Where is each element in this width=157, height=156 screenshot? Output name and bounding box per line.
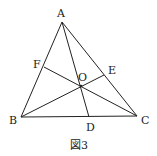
side-ab	[21, 22, 62, 117]
side-bc	[21, 116, 137, 117]
label-a: A	[56, 7, 66, 20]
point-o-dot	[80, 85, 83, 88]
cevian-be	[21, 75, 104, 117]
label-e: E	[108, 64, 116, 77]
cevian-ad	[62, 22, 89, 117]
figure-caption: 図3	[70, 139, 88, 152]
label-o: O	[78, 71, 87, 84]
side-ca	[62, 22, 137, 116]
label-d: D	[86, 121, 95, 134]
cevian-cf	[44, 67, 137, 116]
label-c: C	[141, 114, 149, 127]
label-b: B	[9, 114, 17, 127]
triangle-diagram: A B C D E F O 図3	[0, 0, 157, 156]
label-f: F	[33, 58, 41, 71]
